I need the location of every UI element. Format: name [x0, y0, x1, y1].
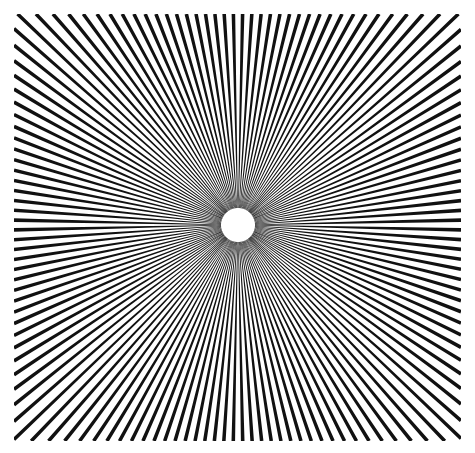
radial-lines-artwork — [0, 0, 475, 453]
radial-lines — [13, 13, 462, 443]
